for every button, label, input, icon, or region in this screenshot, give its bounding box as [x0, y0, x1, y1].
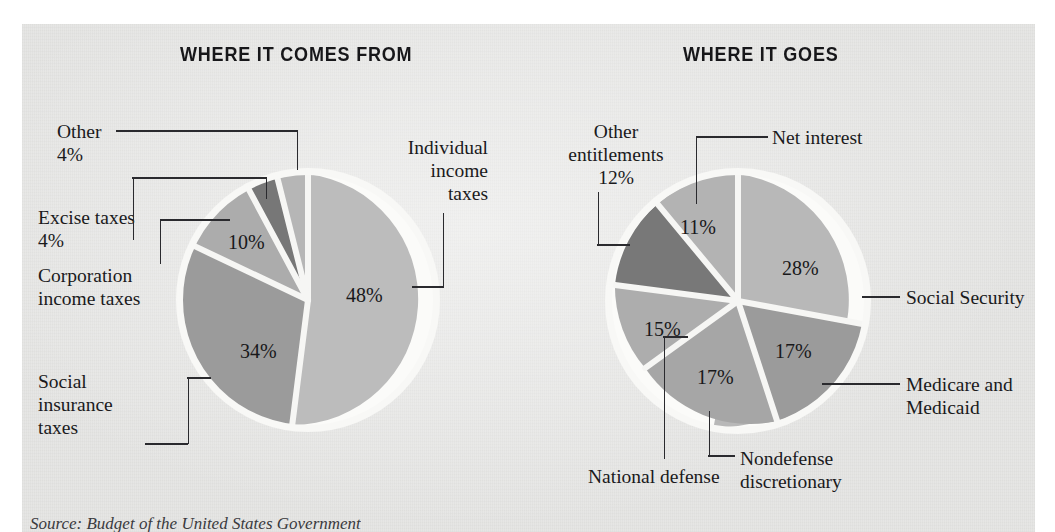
- leader-other-entitlements-vertical: [598, 192, 600, 245]
- leader-social-insurance-horizontal-2: [187, 377, 211, 379]
- leader-excise-vertical: [133, 178, 135, 240]
- leader-national-defense-horizontal: [663, 336, 688, 338]
- label-social-security: Social Security: [906, 286, 1025, 309]
- leader-other-vertical: [297, 130, 299, 170]
- pie-chart-where-it-goes: [600, 160, 885, 445]
- label-national-defense: National defense: [588, 465, 720, 488]
- source-note: Source: Budget of the United States Gove…: [30, 514, 361, 532]
- leader-medicare-horizontal: [822, 383, 900, 385]
- leader-social-insurance-vertical: [188, 378, 190, 444]
- leader-social-insurance-horizontal: [145, 443, 188, 445]
- label-excise-taxes: Excise taxes 4%: [38, 206, 135, 252]
- label-other: Other 4%: [57, 120, 101, 166]
- leader-net-interest-horizontal: [696, 136, 768, 138]
- leader-national-defense-vertical: [664, 337, 666, 459]
- leader-nondefense-horizontal: [708, 455, 735, 457]
- leader-individual-horizontal: [412, 286, 444, 288]
- figure-page: WHERE IT COMES FROM WHERE IT GOES: [0, 0, 1055, 532]
- leader-net-interest-vertical: [696, 136, 698, 204]
- pct-individual-income-taxes: 48%: [346, 284, 383, 307]
- leader-other-entitlements-horizontal: [597, 244, 630, 246]
- leader-corporation-vertical: [160, 219, 162, 264]
- label-social-insurance-taxes: Social insurance taxes: [38, 370, 113, 439]
- pct-net-interest: 11%: [680, 216, 716, 239]
- leader-excise-vertical-2: [266, 177, 268, 199]
- label-medicare-medicaid: Medicare and Medicaid: [906, 373, 1013, 419]
- leader-excise-horizontal: [132, 177, 267, 179]
- leader-social-security-horizontal: [862, 296, 900, 298]
- label-nondefense-discretionary: Nondefense discretionary: [740, 447, 842, 493]
- leader-corporation-horizontal: [160, 219, 230, 221]
- pct-corporation-income-taxes: 10%: [228, 231, 265, 254]
- leader-individual-vertical: [443, 213, 445, 287]
- pct-social-security: 28%: [782, 257, 819, 280]
- leader-nondefense-vertical: [709, 411, 711, 456]
- chart-title-right: WHERE IT GOES: [683, 43, 839, 66]
- label-corporation-income-taxes: Corporation income taxes: [38, 264, 140, 310]
- pct-social-insurance-taxes: 34%: [240, 340, 277, 363]
- chart-title-left: WHERE IT COMES FROM: [180, 43, 412, 66]
- label-net-interest: Net interest: [772, 126, 862, 149]
- leader-other-horizontal: [116, 130, 298, 132]
- pct-medicare-medicaid: 17%: [775, 340, 812, 363]
- pct-nondefense-discretionary: 17%: [697, 366, 734, 389]
- label-other-entitlements: Other entitlements 12%: [556, 120, 676, 189]
- label-individual-income-taxes: Individual income taxes: [378, 136, 488, 205]
